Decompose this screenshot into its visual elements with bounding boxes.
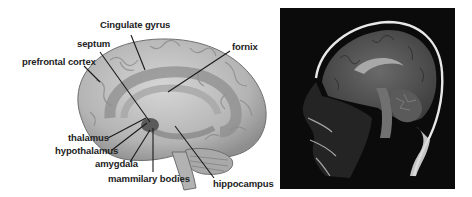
- label-septum: septum: [77, 39, 110, 49]
- label-amygdala: amygdala: [95, 159, 138, 169]
- label-hypothalamus: hypothalamus: [55, 146, 118, 156]
- neck-fat: [410, 126, 430, 176]
- label-fornix: fornix: [232, 42, 258, 52]
- label-cingulate-gyrus: Cingulate gyrus: [100, 20, 170, 30]
- label-thalamus: thalamus: [68, 133, 109, 143]
- brain-illustration: Cingulate gyrus septum prefrontal cortex…: [0, 0, 275, 197]
- label-prefrontal-cortex: prefrontal cortex: [22, 57, 96, 67]
- mri-sagittal-image: [280, 8, 455, 189]
- label-hippocampus: hippocampus: [213, 179, 274, 189]
- mri-drawing: [280, 8, 455, 189]
- label-mammilary-bodies: mammilary bodies: [108, 174, 190, 184]
